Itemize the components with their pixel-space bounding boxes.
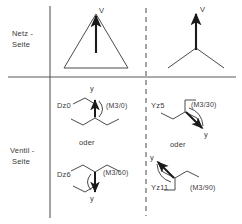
row-label-netz-line2: Seite <box>12 40 30 50</box>
yz11-code-label: Yz11 <box>151 183 168 193</box>
delta-vector-label: V <box>99 6 104 16</box>
yz5-vector-arrow <box>186 112 202 128</box>
row-label-ventil-line1: Ventil - <box>10 146 35 156</box>
dz0-axis-label-y: y <box>90 84 94 94</box>
dz6-axis-label-y: y <box>90 194 94 204</box>
or-label-left: oder <box>79 138 95 148</box>
yz5-arc <box>189 108 203 126</box>
star-connection-lines <box>168 48 224 68</box>
dz6-annotation-label: (M3/60) <box>103 168 129 178</box>
dz6-arc <box>88 174 92 190</box>
row-label-ventil-line2: Seite <box>12 157 30 167</box>
yz11-vector-arrow <box>158 162 174 178</box>
yz5-code-label: Yz5 <box>151 101 165 111</box>
yz11-annotation-label: (M3/90) <box>190 183 216 193</box>
dz0-annotation-label: (M3/0) <box>106 101 127 111</box>
yz11-axis-label-y: y <box>150 153 154 163</box>
delta-triangle <box>64 14 128 68</box>
star-vector-label: V <box>200 5 205 15</box>
yz11-arc <box>157 164 171 182</box>
dz6-code-label: Dz6 <box>57 170 71 180</box>
figure-root: Netz - Seite Ventil - Seite V V y Dz0 (M… <box>0 0 242 224</box>
or-label-right: oder <box>170 140 186 150</box>
yz5-axis-label-y: y <box>204 130 208 140</box>
dz0-code-label: Dz0 <box>57 101 71 111</box>
dz0-arc <box>99 101 103 117</box>
yz5-annotation-label: (M3/30) <box>191 100 217 110</box>
row-label-netz-line1: Netz - <box>12 29 33 39</box>
